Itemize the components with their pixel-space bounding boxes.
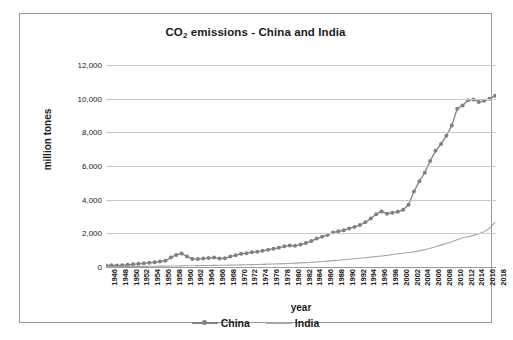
x-axis-tick-label: 1974 [261, 269, 270, 286]
data-point-china [455, 107, 459, 111]
data-point-china [347, 226, 351, 230]
gridline [106, 132, 496, 133]
x-axis-tick-label: 1968 [229, 269, 238, 286]
data-point-china [136, 262, 140, 266]
legend-swatch-icon [266, 318, 292, 328]
data-point-china [309, 239, 313, 243]
series-line-china [106, 96, 495, 266]
data-point-china [277, 246, 281, 250]
chart-frame: CO2 emissions - China and India million … [19, 13, 492, 323]
data-point-china [342, 228, 346, 232]
data-point-china [217, 257, 221, 261]
x-axis-tick-label: 1956 [164, 269, 173, 286]
x-axis-tick-label: 2002 [413, 269, 422, 286]
data-point-china [299, 243, 303, 247]
data-point-china [196, 257, 200, 261]
legend-swatch-icon [192, 318, 218, 328]
data-point-china [255, 250, 259, 254]
x-axis-tick-label: 2000 [402, 269, 411, 286]
data-point-china [417, 179, 421, 183]
data-point-china [239, 252, 243, 256]
x-axis-tick-label: 1996 [380, 269, 389, 286]
gridline [106, 200, 496, 201]
data-point-china [320, 235, 324, 239]
data-point-china [396, 210, 400, 214]
x-axis-tick-label: 1964 [207, 269, 216, 286]
data-point-china [142, 261, 146, 265]
chart-legend: ChinaIndia [20, 317, 491, 329]
data-point-china [439, 142, 443, 146]
x-axis-tick-label: 1966 [218, 269, 227, 286]
x-axis-tick-label: 2016 [488, 269, 497, 286]
data-point-china [450, 124, 454, 128]
y-axis-tick-label: 6,000 [50, 162, 102, 171]
data-point-china [304, 241, 308, 245]
data-point-china [261, 249, 265, 253]
legend-label: India [295, 317, 320, 329]
chart-title-prefix: CO [165, 26, 182, 38]
data-point-china [380, 209, 384, 213]
data-point-china [228, 255, 232, 259]
data-point-china [169, 256, 173, 260]
data-point-china [266, 248, 270, 252]
legend-item-india[interactable]: India [266, 317, 320, 329]
x-axis-tick-label: 1970 [240, 269, 249, 286]
x-axis-tick-label: 1990 [348, 269, 357, 286]
y-axis-tick-label: 8,000 [50, 128, 102, 137]
data-point-china [147, 261, 151, 265]
data-point-china [174, 253, 178, 257]
y-axis-tick-label: 4,000 [50, 195, 102, 204]
x-axis-tick-label: 1984 [315, 269, 324, 286]
data-point-china [477, 100, 481, 104]
data-point-china [282, 244, 286, 248]
data-point-china [131, 262, 135, 266]
chart-title-suffix: emissions - China and India [187, 26, 345, 38]
x-axis-tick-label: 1978 [283, 269, 292, 286]
data-point-china [401, 208, 405, 212]
x-axis-tick-label: 1950 [132, 269, 141, 286]
x-axis-tick-label: 1992 [359, 269, 368, 286]
x-axis-tick-label: 1994 [369, 269, 378, 286]
y-axis-tick-label: 10,000 [50, 94, 102, 103]
x-axis-tick-label: 1960 [186, 269, 195, 286]
x-axis-tick-label: 1952 [142, 269, 151, 286]
plot-area [106, 65, 496, 267]
data-point-china [190, 257, 194, 261]
gridline [106, 166, 496, 167]
data-point-china [180, 252, 184, 256]
data-point-china [385, 212, 389, 216]
x-axis-tick-label: 1986 [326, 269, 335, 286]
x-axis-tick-label: 1998 [391, 269, 400, 286]
data-point-china [153, 260, 157, 264]
x-axis-tick-label: 2008 [445, 269, 454, 286]
data-point-china [434, 149, 438, 153]
data-point-china [271, 247, 275, 251]
data-point-china [423, 171, 427, 175]
data-point-china [358, 223, 362, 227]
x-axis-tick-label: 1946 [110, 269, 119, 286]
y-axis-tick-label: 0 [50, 263, 102, 272]
data-point-china [158, 259, 162, 263]
data-point-china [407, 203, 411, 207]
legend-item-china[interactable]: China [192, 317, 250, 329]
x-axis-tick-label: 2010 [456, 269, 465, 286]
x-axis-label: year [106, 302, 496, 313]
data-point-china [353, 225, 357, 229]
data-point-china [293, 244, 297, 248]
chart-title-subscript: 2 [183, 31, 188, 40]
data-point-china [212, 256, 216, 260]
x-axis-tick-label: 1958 [175, 269, 184, 286]
data-point-china [428, 159, 432, 163]
x-axis-tick-label: 2006 [434, 269, 443, 286]
x-axis-tick-label: 1948 [121, 269, 130, 286]
x-axis-tick-label: 1972 [250, 269, 259, 286]
gridline [106, 267, 496, 268]
x-axis-tick-labels: 1946194819501952195419561958196019621964… [106, 269, 496, 303]
data-point-china [390, 211, 394, 215]
legend-label: China [221, 317, 250, 329]
data-point-china [223, 256, 227, 260]
data-point-china [315, 237, 319, 241]
data-point-china [250, 250, 254, 254]
data-point-china [201, 257, 205, 261]
x-axis-tick-label: 1976 [272, 269, 281, 286]
